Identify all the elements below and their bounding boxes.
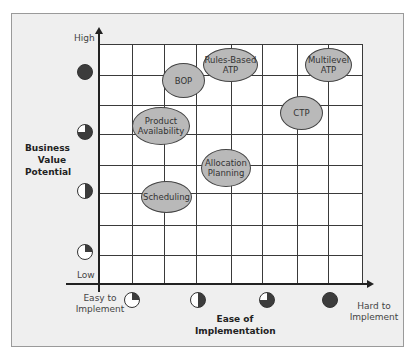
bubble-bop: BOP (162, 63, 205, 98)
y-low-label: Low (77, 270, 95, 280)
grid-line (362, 44, 363, 284)
bubble-scheduling: Scheduling (141, 181, 192, 213)
bubble-rules-based-atp: Rules-BasedATP (203, 48, 258, 82)
harvey-ball-three-quarter-icon (259, 292, 275, 308)
bubble-label: CTP (293, 108, 309, 118)
grid-line (99, 193, 363, 194)
harvey-ball-quarter-icon (77, 244, 93, 260)
grid-line (99, 225, 363, 226)
bubble-label: Rules-BasedATP (205, 55, 257, 75)
y-axis (98, 32, 100, 292)
x-easy-label: Implement (74, 304, 126, 314)
y-axis-title-line: Business (25, 143, 66, 153)
x-axis-title-line: Implementation (195, 326, 275, 336)
bubble-ctp: CTP (280, 96, 323, 130)
bubble-product-availability: ProductAvailability (132, 107, 190, 145)
harvey-ball-full-icon (322, 292, 338, 308)
grid-line (99, 44, 363, 45)
grid-line (297, 44, 298, 284)
bubble-label: Scheduling (143, 192, 190, 202)
x-axis (66, 283, 368, 285)
grid-line (99, 255, 363, 256)
x-axis-arrow-icon (367, 280, 374, 288)
y-axis-title-line: Value (25, 155, 66, 165)
x-hard-label: Implement (348, 312, 400, 322)
harvey-ball-three-quarter-icon (77, 124, 93, 140)
harvey-ball-full-icon (77, 64, 93, 80)
harvey-ball-half-icon (190, 292, 206, 308)
x-hard-label: Hard to (352, 301, 396, 311)
harvey-ball-half-icon (77, 183, 93, 199)
bubble-multilevel-atp: MultilevelATP (305, 48, 352, 82)
y-axis-arrow-icon (95, 27, 103, 34)
bubble-allocation-planning: AllocationPlanning (201, 149, 251, 187)
y-high-label: High (74, 33, 95, 43)
grid-line (262, 44, 263, 284)
harvey-ball-quarter-icon (124, 292, 140, 308)
bubble-label: ProductAvailability (138, 116, 184, 136)
x-easy-label: Easy to (78, 293, 122, 303)
bubble-label: MultilevelATP (308, 55, 349, 75)
x-axis-title-line: Ease of (200, 314, 270, 324)
y-axis-title-line: Potential (25, 167, 66, 177)
grid-line (99, 105, 363, 106)
grid-line (132, 44, 133, 284)
bubble-label: AllocationPlanning (205, 158, 247, 178)
bubble-label: BOP (175, 76, 193, 86)
